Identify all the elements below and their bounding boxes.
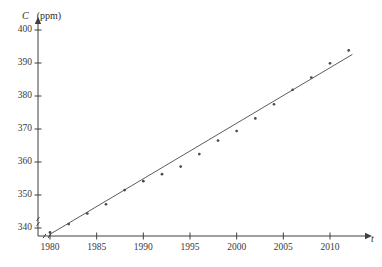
- y-tick-label-400: 400: [8, 24, 32, 34]
- y-tick-label-350: 350: [8, 189, 32, 199]
- axes-group: [35, 17, 372, 239]
- tick-marks-group: [35, 30, 331, 240]
- x-tick-label-2005: 2005: [270, 242, 296, 252]
- x-tick-label-1990: 1990: [130, 242, 156, 252]
- y-axis-symbol: C: [22, 10, 29, 21]
- co2-scatter-figure: 400390380370360350340 198019851990199520…: [0, 0, 382, 267]
- plot-canvas: [0, 0, 382, 267]
- y-axis-title: C(ppm): [22, 10, 61, 21]
- x-tick-label-1995: 1995: [177, 242, 203, 252]
- y-axis-unit: (ppm): [37, 10, 61, 21]
- data-points-group: [49, 49, 350, 234]
- x-tick-label-2000: 2000: [224, 242, 250, 252]
- y-tick-label-360: 360: [8, 156, 32, 166]
- y-tick-label-370: 370: [8, 123, 32, 133]
- y-tick-label-380: 380: [8, 90, 32, 100]
- y-tick-label-390: 390: [8, 57, 32, 67]
- y-tick-label-340: 340: [8, 222, 32, 232]
- x-tick-label-1980: 1980: [37, 242, 63, 252]
- x-axis-title: t: [371, 233, 374, 244]
- x-tick-label-1985: 1985: [84, 242, 110, 252]
- regression-line: [50, 54, 352, 234]
- x-tick-label-2010: 2010: [317, 242, 343, 252]
